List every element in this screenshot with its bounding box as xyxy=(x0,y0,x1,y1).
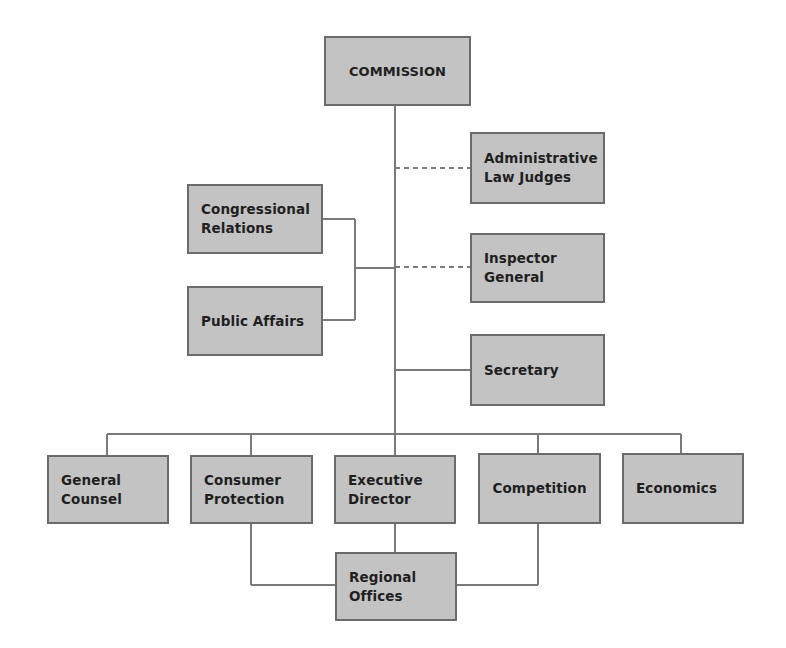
node-competition: Competition xyxy=(478,453,601,524)
node-economics: Economics xyxy=(622,453,744,524)
node-secretary: Secretary xyxy=(470,334,605,406)
node-label: Competition xyxy=(492,479,586,498)
node-label: Inspector General xyxy=(484,249,557,287)
node-label: General Counsel xyxy=(61,471,122,509)
node-label: COMMISSION xyxy=(349,62,446,81)
org-chart: COMMISSION Administrative Law Judges Con… xyxy=(0,0,786,648)
node-congressional-relations: Congressional Relations xyxy=(187,184,323,254)
node-consumer-protection: Consumer Protection xyxy=(190,455,313,524)
node-label: Consumer Protection xyxy=(204,471,284,509)
node-commission: COMMISSION xyxy=(324,36,471,106)
node-label: Congressional Relations xyxy=(201,200,310,238)
node-general-counsel: General Counsel xyxy=(47,455,169,524)
node-administrative-law-judges: Administrative Law Judges xyxy=(470,132,605,204)
node-inspector-general: Inspector General xyxy=(470,233,605,303)
node-public-affairs: Public Affairs xyxy=(187,286,323,356)
node-label: Economics xyxy=(636,479,717,498)
node-executive-director: Executive Director xyxy=(334,455,456,524)
node-label: Regional Offices xyxy=(349,568,416,606)
node-label: Administrative Law Judges xyxy=(484,149,598,187)
node-label: Secretary xyxy=(484,361,559,380)
node-label: Public Affairs xyxy=(201,312,304,331)
node-regional-offices: Regional Offices xyxy=(335,552,457,621)
node-label: Executive Director xyxy=(348,471,423,509)
